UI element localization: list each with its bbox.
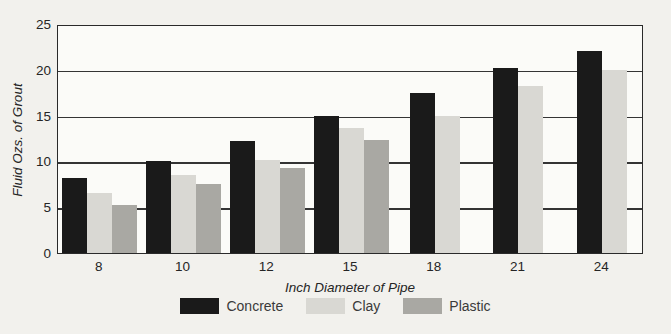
bar-clay-18 <box>435 116 460 253</box>
bar-clay-10 <box>171 175 196 253</box>
legend-item-concrete: Concrete <box>180 298 283 314</box>
y-tick-5: 5 <box>11 200 51 216</box>
bar-plastic-12 <box>280 168 305 253</box>
legend-item-plastic: Plastic <box>403 298 490 314</box>
y-tick-10: 10 <box>11 154 51 170</box>
bar-clay-8 <box>87 193 112 253</box>
bar-clay-24 <box>602 70 627 253</box>
bar-plastic-15 <box>364 140 389 253</box>
bar-concrete-8 <box>62 178 87 253</box>
legend-label-plastic: Plastic <box>449 298 490 314</box>
bar-clay-15 <box>339 128 364 253</box>
x-tick-10: 10 <box>159 259 207 275</box>
bar-clay-21 <box>518 86 543 253</box>
x-tick-12: 12 <box>242 259 290 275</box>
gridline-20 <box>58 71 642 73</box>
bar-concrete-12 <box>230 141 255 253</box>
legend-item-clay: Clay <box>306 298 380 314</box>
x-tick-18: 18 <box>410 259 458 275</box>
legend-swatch-clay <box>306 298 345 314</box>
bar-plastic-10 <box>196 184 221 253</box>
bar-concrete-15 <box>314 116 339 253</box>
legend: ConcreteClayPlastic <box>0 298 671 314</box>
grout-bar-chart: Fluid Ozs. of Grout 0510152025 810121518… <box>0 0 671 334</box>
legend-swatch-concrete <box>180 298 219 314</box>
y-tick-20: 20 <box>11 63 51 79</box>
bar-concrete-18 <box>410 93 435 253</box>
y-tick-0: 0 <box>11 246 51 262</box>
bar-concrete-21 <box>493 68 518 253</box>
y-tick-15: 15 <box>11 109 51 125</box>
bar-concrete-24 <box>577 51 602 253</box>
x-tick-21: 21 <box>493 259 541 275</box>
gridline-15 <box>58 117 642 119</box>
x-tick-24: 24 <box>577 259 625 275</box>
legend-label-clay: Clay <box>352 298 380 314</box>
bar-clay-12 <box>255 160 280 253</box>
legend-swatch-plastic <box>403 298 442 314</box>
bar-concrete-10 <box>146 161 171 253</box>
y-axis-title: Fluid Ozs. of Grout <box>10 83 25 196</box>
x-tick-15: 15 <box>326 259 374 275</box>
y-tick-25: 25 <box>11 17 51 33</box>
x-tick-8: 8 <box>75 259 123 275</box>
bar-plastic-8 <box>112 205 137 253</box>
plot-area <box>57 25 643 254</box>
legend-label-concrete: Concrete <box>226 298 283 314</box>
x-axis-title: Inch Diameter of Pipe <box>57 280 643 295</box>
